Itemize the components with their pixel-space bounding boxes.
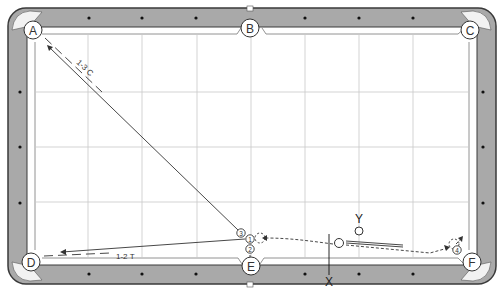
ball-3: 3 [237,229,245,237]
pocket-a-label: A [29,24,37,38]
pocket-c: C [461,21,479,39]
ball-1: 1 [246,235,254,243]
label-1-2t: 1-2 T [116,252,135,261]
pocket-f-label: F [468,256,475,270]
ball-4: 4 [453,246,461,254]
pocket-e: E [242,257,260,275]
pocket-b: B [241,19,259,37]
pocket-d-label: D [27,256,36,270]
ball-4-label: 4 [455,247,459,254]
pocket-b-label: B [246,22,254,36]
label-y: Y [355,212,363,226]
pocket-d: D [22,253,40,271]
label-x: X [325,275,333,289]
cue-ball [335,239,344,248]
pool-table-diagram: A B C D E F 3 1 [0,0,503,293]
pocket-a: A [24,21,42,39]
pocket-e-label: E [247,260,255,274]
ball-y [355,227,363,235]
ball-1-label: 1 [248,236,252,243]
pocket-f: F [463,253,481,271]
pocket-c-label: C [466,24,475,38]
ball-2: 2 [246,245,254,253]
ball-3-label: 3 [239,230,243,237]
ball-2-label: 2 [248,246,252,253]
